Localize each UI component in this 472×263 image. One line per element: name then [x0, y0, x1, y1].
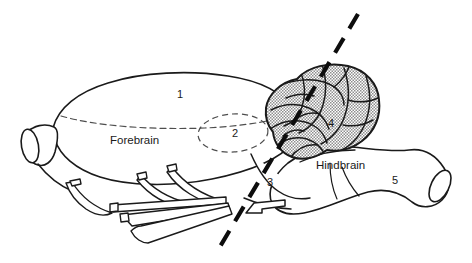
label-hindbrain: Hindbrain [316, 159, 365, 171]
brain-diagram-svg: 1 2 3 4 5 Forebrain Hindbrain [0, 0, 472, 263]
cranial-nerve-root-4-cap [167, 164, 177, 172]
cranial-nerve-root-5-cap [110, 203, 118, 212]
label-forebrain: Forebrain [110, 134, 159, 146]
label-5: 5 [392, 174, 398, 186]
brain-drawing: 1 2 3 4 5 Forebrain Hindbrain [19, 14, 456, 250]
label-4: 4 [328, 117, 334, 129]
cranial-nerve-root-3-cap [137, 172, 147, 180]
brain-diagram-figure: 1 2 3 4 5 Forebrain Hindbrain [0, 0, 472, 263]
label-3: 3 [267, 176, 273, 188]
label-1: 1 [177, 88, 183, 100]
cranial-nerve-root-2 [70, 179, 81, 186]
cranial-nerve-root-1 [66, 182, 112, 215]
label-2: 2 [232, 127, 238, 139]
cranial-nerve-root-6-cap [120, 213, 129, 222]
